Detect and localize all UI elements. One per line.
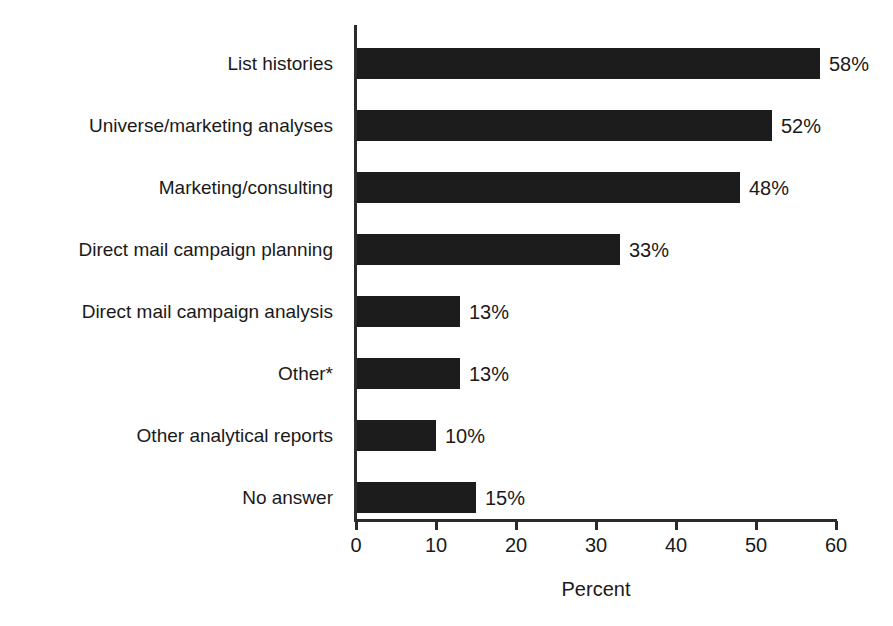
- bar: [356, 358, 460, 389]
- bar: [356, 48, 820, 79]
- category-label: No answer: [0, 486, 345, 510]
- x-axis-tick: [595, 521, 598, 530]
- bar-value-label: 33%: [629, 239, 669, 261]
- bar-row: 48%: [356, 172, 893, 203]
- y-axis-line: [354, 25, 357, 521]
- bar: [356, 296, 460, 327]
- bar: [356, 420, 436, 451]
- category-label: Direct mail campaign planning: [0, 238, 345, 262]
- category-label: List histories: [0, 52, 345, 76]
- bar-value-label: 52%: [781, 115, 821, 137]
- category-label: Marketing/consulting: [0, 176, 345, 200]
- bar-value-label: 13%: [469, 301, 509, 323]
- bar: [356, 482, 476, 513]
- x-axis-tick-label: 60: [825, 532, 847, 558]
- x-axis-tick-label: 20: [505, 532, 527, 558]
- category-label: Other*: [0, 362, 345, 386]
- x-axis-tick: [355, 521, 358, 530]
- x-axis-tick: [835, 521, 838, 530]
- bar-row: 52%: [356, 110, 893, 141]
- bar-row: 15%: [356, 482, 893, 513]
- x-axis-tick-label: 40: [665, 532, 687, 558]
- x-axis-tick: [675, 521, 678, 530]
- bar-value-label: 10%: [445, 425, 485, 447]
- x-axis-tick: [515, 521, 518, 530]
- bar-row: 33%: [356, 234, 893, 265]
- bar: [356, 234, 620, 265]
- category-label: Other analytical reports: [0, 424, 345, 448]
- bar-chart: List historiesUniverse/marketing analyse…: [0, 0, 893, 626]
- category-label: Universe/marketing analyses: [0, 114, 345, 138]
- x-axis-tick-label: 10: [425, 532, 447, 558]
- bar-row: 13%: [356, 296, 893, 327]
- x-axis-tick: [755, 521, 758, 530]
- category-label: Direct mail campaign analysis: [0, 300, 345, 324]
- x-axis-tick-label: 30: [585, 532, 607, 558]
- bar-value-label: 15%: [485, 487, 525, 509]
- bar-value-label: 13%: [469, 363, 509, 385]
- bar: [356, 110, 772, 141]
- x-axis-tick-label: 0: [350, 532, 361, 558]
- x-axis-title: Percent: [356, 576, 836, 602]
- bar-row: 13%: [356, 358, 893, 389]
- bar-value-label: 58%: [829, 53, 869, 75]
- bar-row: 10%: [356, 420, 893, 451]
- bar-value-label: 48%: [749, 177, 789, 199]
- bar: [356, 172, 740, 203]
- x-axis-tick-label: 50: [745, 532, 767, 558]
- bar-row: 58%: [356, 48, 893, 79]
- x-axis-tick: [435, 521, 438, 530]
